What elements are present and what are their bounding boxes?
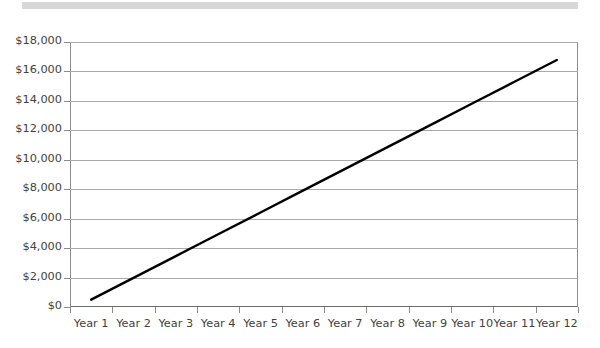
- gridline-horizontal: [70, 130, 578, 131]
- y-axis-label: $0: [0, 299, 62, 312]
- x-axis-tick: [493, 307, 494, 313]
- x-axis-tick: [197, 307, 198, 313]
- y-axis-label: $10,000: [0, 152, 62, 165]
- x-axis-tick: [536, 307, 537, 313]
- gridline-horizontal: [70, 101, 578, 102]
- x-axis-tick: [409, 307, 410, 313]
- gridline-horizontal: [70, 71, 578, 72]
- y-axis-tick: [64, 101, 70, 102]
- gridline-horizontal: [70, 189, 578, 190]
- x-axis-label: Year 12: [527, 317, 587, 330]
- x-axis-tick: [70, 307, 71, 313]
- plot-area: [70, 42, 578, 307]
- y-axis-label: $18,000: [0, 34, 62, 47]
- y-axis-label: $14,000: [0, 93, 62, 106]
- x-axis-tick: [239, 307, 240, 313]
- y-axis-tick: [64, 42, 70, 43]
- y-axis-label: $6,000: [0, 211, 62, 224]
- x-axis-tick: [366, 307, 367, 313]
- y-axis-tick: [64, 71, 70, 72]
- y-axis-tick: [64, 189, 70, 190]
- y-axis-label: $12,000: [0, 122, 62, 135]
- y-axis-tick: [64, 160, 70, 161]
- x-axis-tick: [112, 307, 113, 313]
- y-axis-label: $8,000: [0, 181, 62, 194]
- y-axis-label: $2,000: [0, 270, 62, 283]
- gridline-horizontal: [70, 42, 578, 43]
- x-axis-tick: [282, 307, 283, 313]
- gridline-horizontal: [70, 160, 578, 161]
- gridline-horizontal: [70, 278, 578, 279]
- y-axis-tick: [64, 219, 70, 220]
- gridline-horizontal: [70, 248, 578, 249]
- gridline-horizontal: [70, 219, 578, 220]
- y-axis-label: $16,000: [0, 63, 62, 76]
- x-axis-tick: [451, 307, 452, 313]
- y-axis-label: $4,000: [0, 240, 62, 253]
- line-chart: $0$2,000$4,000$6,000$8,000$10,000$12,000…: [0, 0, 600, 348]
- x-axis-tick: [155, 307, 156, 313]
- y-axis-tick: [64, 278, 70, 279]
- x-axis-tick: [578, 307, 579, 313]
- y-axis-tick: [64, 130, 70, 131]
- y-axis-tick: [64, 248, 70, 249]
- x-axis-tick: [324, 307, 325, 313]
